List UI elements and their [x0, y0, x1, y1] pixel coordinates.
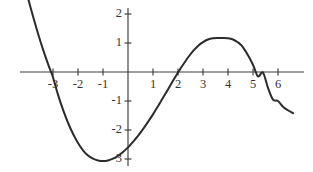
- y-tick-label-2: 2: [116, 6, 122, 20]
- y-tick-label--2: -2: [112, 122, 122, 136]
- x-tick-label-3: 3: [200, 77, 206, 91]
- x-tick-label-6: 6: [275, 77, 281, 91]
- x-tick-label--2: -2: [73, 77, 83, 91]
- x-axis-tick-labels: -3-2-1123456: [48, 77, 281, 91]
- y-axis-tick-labels: 21-1-2-3: [112, 6, 122, 165]
- x-tick-label--1: -1: [98, 77, 108, 91]
- x-tick-label-1: 1: [150, 77, 156, 91]
- chart-container: -3-2-1123456 21-1-2-3: [0, 0, 313, 172]
- y-tick-label--1: -1: [112, 93, 122, 107]
- x-tick-label-2: 2: [175, 77, 181, 91]
- y-tick-label-1: 1: [116, 35, 122, 49]
- x-tick-label-5: 5: [250, 77, 256, 91]
- x-tick-label-4: 4: [225, 77, 232, 91]
- cubic-function-graph: -3-2-1123456 21-1-2-3: [0, 0, 313, 172]
